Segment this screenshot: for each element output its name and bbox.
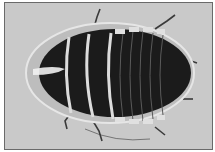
insect-photo <box>5 3 213 150</box>
photo-frame <box>4 2 213 150</box>
insect-body <box>39 29 191 117</box>
